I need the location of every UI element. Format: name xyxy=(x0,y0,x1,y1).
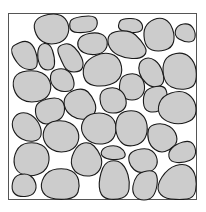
aggregate-diagram xyxy=(0,0,206,212)
aggregate-particle xyxy=(82,113,117,144)
aggregate-particle xyxy=(13,71,51,102)
aggregate-particle xyxy=(14,143,49,176)
aggregate-particle xyxy=(41,169,79,200)
aggregate-particle xyxy=(158,92,196,124)
aggregate-particle xyxy=(163,53,196,89)
aggregate-particle xyxy=(129,149,158,173)
aggregate-particle xyxy=(116,111,148,146)
aggregate-particle xyxy=(100,88,126,113)
aggregate-particle xyxy=(99,161,129,200)
aggregate-particle xyxy=(78,33,108,55)
aggregate-particle xyxy=(12,174,36,197)
aggregate-particle xyxy=(34,14,69,44)
aggregate-particle xyxy=(43,121,79,152)
aggregate-particle xyxy=(70,16,98,33)
aggregate-particle xyxy=(144,18,174,51)
